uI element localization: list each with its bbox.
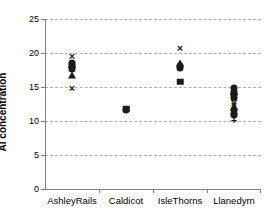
y-tick-label: 25 — [29, 14, 39, 24]
data-point-plus: + — [230, 116, 239, 125]
data-point-circle — [177, 64, 184, 71]
gridline — [45, 19, 261, 20]
data-point-x: × — [68, 84, 77, 93]
x-category-label: IsleThorns — [158, 195, 202, 206]
gridline — [45, 87, 261, 88]
x-category-label: Llanedyrn — [213, 195, 255, 206]
y-tick-label: 5 — [34, 150, 39, 160]
gridline — [45, 155, 261, 156]
data-point-square — [177, 78, 184, 85]
x-tick-mark — [99, 189, 100, 193]
data-point-triangle — [68, 72, 76, 79]
y-tick-label: 10 — [29, 116, 39, 126]
x-tick-mark — [153, 189, 154, 193]
y-tick-label: 0 — [34, 184, 39, 194]
x-category-label: Caldicot — [109, 195, 143, 206]
x-tick-mark — [260, 189, 261, 193]
y-tick-label: 15 — [29, 82, 39, 92]
y-axis-line — [45, 19, 46, 189]
y-tick-label: 20 — [29, 48, 39, 58]
gridline — [45, 53, 261, 54]
data-point-circle — [123, 107, 130, 114]
x-tick-mark — [207, 189, 208, 193]
x-category-label: AshleyRails — [47, 195, 97, 206]
al-concentration-scatter-chart: Al concentration 0510152025 ×××××+ Ashle… — [0, 0, 269, 224]
data-point-x: × — [176, 43, 185, 52]
y-axis-title: Al concentration — [0, 0, 18, 224]
plot-area: 0510152025 ×××××+ AshleyRailsCaldicotIsl… — [45, 19, 261, 189]
